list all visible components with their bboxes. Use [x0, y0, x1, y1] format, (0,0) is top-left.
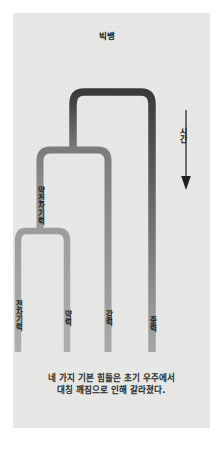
- time-arrow: [181, 110, 191, 190]
- edge-bigbang-split: [73, 92, 152, 352]
- label-weak: 약력: [63, 310, 71, 325]
- label-bigbang: 빅뱅: [99, 29, 115, 41]
- label-electromagnetic: 전자기력: [14, 300, 22, 331]
- edge-electroweak-split: [18, 231, 67, 352]
- label-electroweak: 약전자기력: [36, 186, 44, 225]
- edge-gut-split: [40, 150, 108, 352]
- caption-line-1: 네 가지 기본 힘들은 초기 우주에서: [16, 372, 207, 384]
- caption-line-2: 대칭 깨짐으로 인해 갈라졌다.: [16, 384, 207, 396]
- figure-caption: 네 가지 기본 힘들은 초기 우주에서 대칭 깨짐으로 인해 갈라졌다.: [16, 372, 207, 397]
- label-strong: 강력: [104, 310, 112, 325]
- label-gravity: 중력: [148, 316, 156, 331]
- label-time: 시간: [178, 127, 186, 142]
